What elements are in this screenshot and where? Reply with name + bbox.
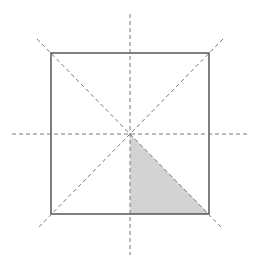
square-symmetry-diagram [0,0,258,262]
